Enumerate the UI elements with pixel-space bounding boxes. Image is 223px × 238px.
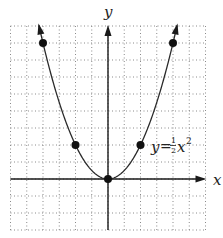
equation-exponent: 2 [186,136,192,146]
parabola-chart: x y y = 1 2 x 2 [0,0,223,238]
data-point [39,39,47,47]
equation-x: x [177,138,186,156]
equation-denominator: 2 [171,146,176,155]
curve-arrow-right-icon [172,24,179,35]
x-axis-arrow-icon [196,176,207,183]
equation-y: y [150,138,160,156]
y-axis-arrow-icon [105,25,112,36]
data-point [104,175,112,183]
equation-numerator: 1 [171,136,176,145]
curve-arrow-left-icon [37,24,44,35]
y-axis-label: y [103,3,113,21]
x-axis-label: x [213,171,222,189]
data-point [137,141,145,149]
data-point [169,39,177,47]
axes [11,25,207,230]
equation-label: y = 1 2 x 2 [150,136,192,156]
equation-equals: = [160,138,172,154]
data-point [72,141,80,149]
